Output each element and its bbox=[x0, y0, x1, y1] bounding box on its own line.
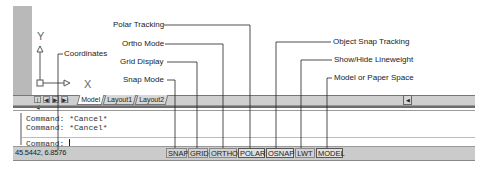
annotation-leader-lines bbox=[0, 0, 483, 171]
